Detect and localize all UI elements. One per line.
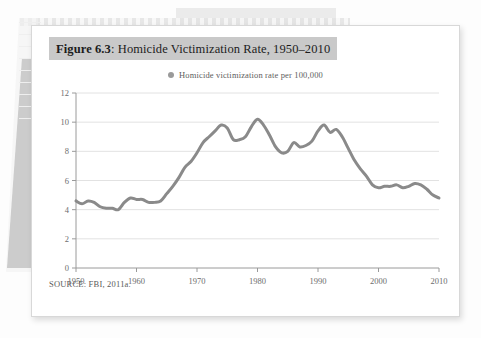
chart-plot-area: 024681012 1950196019701980199020002010 xyxy=(32,26,459,316)
svg-text:1970: 1970 xyxy=(189,276,206,286)
svg-text:6: 6 xyxy=(65,176,69,186)
svg-text:1980: 1980 xyxy=(249,276,266,286)
svg-text:2: 2 xyxy=(65,234,69,244)
chart-gridlines xyxy=(76,93,439,239)
svg-text:1990: 1990 xyxy=(310,276,327,286)
svg-text:2000: 2000 xyxy=(370,276,387,286)
svg-text:8: 8 xyxy=(65,146,69,156)
chart-series-group xyxy=(76,119,439,210)
svg-text:12: 12 xyxy=(61,88,70,98)
figure-card: Figure 6.3: Homicide Victimization Rate,… xyxy=(31,25,460,317)
figure-source: SOURCE: FBI, 2011a. xyxy=(49,279,131,289)
svg-text:10: 10 xyxy=(61,117,70,127)
svg-text:4: 4 xyxy=(65,205,70,215)
svg-text:2010: 2010 xyxy=(431,276,448,286)
chart-y-axis: 024681012 xyxy=(61,88,77,273)
line-chart-svg: 024681012 1950196019701980199020002010 xyxy=(32,26,459,316)
svg-text:0: 0 xyxy=(65,263,69,273)
